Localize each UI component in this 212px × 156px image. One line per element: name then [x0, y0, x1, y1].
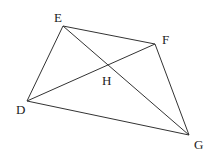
segment-fg	[155, 44, 189, 135]
segment-ef	[63, 26, 155, 44]
geometry-diagram: E F D G H	[0, 0, 212, 156]
segment-gd	[27, 101, 189, 135]
label-g: G	[194, 137, 203, 152]
segment-de	[27, 26, 63, 101]
diagonal-df	[27, 44, 155, 101]
diagonal-eg	[63, 26, 189, 135]
label-h: H	[102, 73, 111, 88]
label-e: E	[54, 10, 62, 25]
label-d: D	[16, 102, 25, 117]
label-f: F	[162, 32, 169, 47]
